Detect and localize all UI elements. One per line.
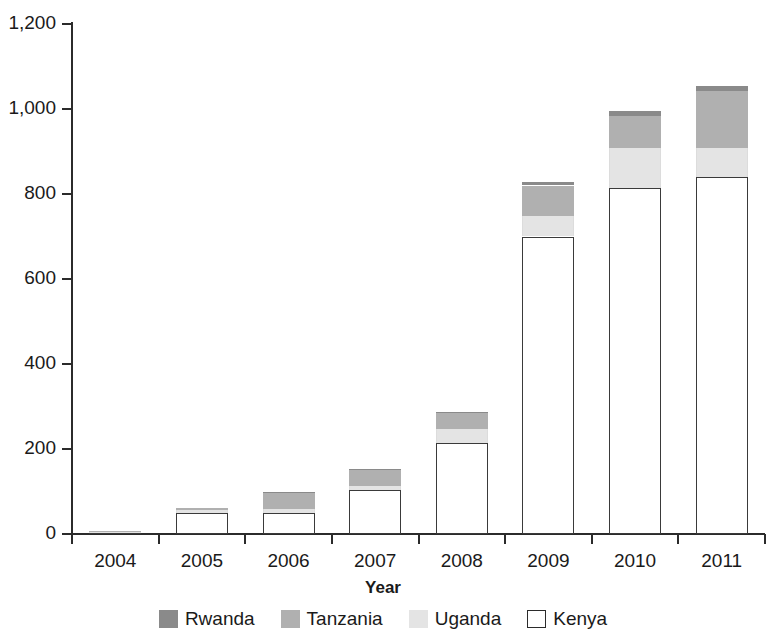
bar-segment-uganda-2007 — [349, 486, 401, 490]
y-axis-tick — [62, 363, 72, 365]
y-axis-tick-label: 1,200 — [0, 12, 56, 34]
legend-swatch-uganda-icon — [409, 610, 428, 628]
bar-segment-tanzania-2006 — [263, 493, 315, 509]
bar-segment-tanzania-2010 — [609, 116, 661, 148]
bar-segment-uganda-2011 — [696, 148, 748, 177]
bar-segment-uganda-2008 — [436, 429, 488, 443]
x-axis-tick-label: 2006 — [245, 550, 332, 572]
bar-segment-tanzania-2007 — [349, 470, 401, 486]
bar-segment-rwanda-2009 — [522, 182, 574, 185]
x-axis-tick-label: 2011 — [678, 550, 765, 572]
x-axis-tick — [591, 534, 593, 544]
bar-segment-tanzania-2005 — [176, 508, 228, 510]
bar-segment-rwanda-2008 — [436, 412, 488, 414]
x-axis-title: Year — [0, 578, 766, 598]
bar-segment-kenya-2007 — [349, 490, 401, 534]
x-axis-tick-label: 2009 — [505, 550, 592, 572]
y-axis-tick — [62, 108, 72, 110]
bar-segment-rwanda-2010 — [609, 111, 661, 116]
bar-segment-kenya-2006 — [263, 513, 315, 534]
bar-segment-tanzania-2008 — [436, 413, 488, 429]
legend-label: Tanzania — [307, 608, 383, 630]
bar-segment-rwanda-2011 — [696, 86, 748, 92]
bar-2009 — [522, 24, 574, 534]
y-axis-tick-label: 400 — [0, 352, 56, 374]
bar-2010 — [609, 24, 661, 534]
legend-swatch-rwanda-icon — [159, 610, 178, 628]
y-axis-tick-label: 600 — [0, 267, 56, 289]
bar-segment-kenya-2010 — [609, 188, 661, 534]
y-axis-tick-label: 1,000 — [0, 97, 56, 119]
y-axis-tick — [62, 23, 72, 25]
x-axis-tick — [418, 534, 420, 544]
legend-label: Kenya — [553, 608, 607, 630]
x-axis-tick — [677, 534, 679, 544]
bar-segment-rwanda-2007 — [349, 469, 401, 471]
x-axis-tick — [504, 534, 506, 544]
stacked-bar-chart: 02004006008001,0001,200 2004200520062007… — [0, 0, 766, 637]
bar-2004 — [89, 24, 141, 534]
bar-segment-uganda-2006 — [263, 509, 315, 513]
y-axis-tick — [62, 193, 72, 195]
chart-legend: RwandaTanzaniaUgandaKenya — [0, 608, 766, 630]
legend-item-uganda[interactable]: Uganda — [409, 608, 502, 630]
bar-segment-uganda-2005 — [176, 510, 228, 513]
bar-2007 — [349, 24, 401, 534]
y-axis-tick-label: 800 — [0, 182, 56, 204]
x-axis-tick-label: 2010 — [592, 550, 679, 572]
y-axis-tick — [62, 278, 72, 280]
x-axis-tick-label: 2007 — [332, 550, 419, 572]
y-axis-tick-label: 0 — [0, 522, 56, 544]
bar-segment-rwanda-2006 — [263, 492, 315, 494]
bar-2006 — [263, 24, 315, 534]
legend-item-tanzania[interactable]: Tanzania — [281, 608, 383, 630]
x-axis-tick-label: 2005 — [159, 550, 246, 572]
legend-label: Rwanda — [185, 608, 255, 630]
bar-segment-tanzania-2004 — [89, 531, 141, 533]
bar-segment-uganda-2010 — [609, 148, 661, 188]
x-axis-tick — [158, 534, 160, 544]
y-axis-tick — [62, 448, 72, 450]
legend-label: Uganda — [435, 608, 502, 630]
bar-segment-tanzania-2011 — [696, 91, 748, 148]
bar-segment-tanzania-2009 — [522, 186, 574, 217]
x-axis-tick-label: 2008 — [419, 550, 506, 572]
legend-item-kenya[interactable]: Kenya — [527, 608, 607, 630]
y-axis-tick-label: 200 — [0, 437, 56, 459]
bar-2005 — [176, 24, 228, 534]
legend-swatch-tanzania-icon — [281, 610, 300, 628]
bar-2011 — [696, 24, 748, 534]
x-axis-tick — [71, 534, 73, 544]
legend-swatch-kenya-icon — [527, 610, 546, 628]
bar-2008 — [436, 24, 488, 534]
bar-segment-kenya-2009 — [522, 237, 574, 535]
bar-segment-kenya-2008 — [436, 443, 488, 534]
legend-item-rwanda[interactable]: Rwanda — [159, 608, 255, 630]
bar-segment-uganda-2009 — [522, 216, 574, 236]
bar-segment-kenya-2011 — [696, 177, 748, 534]
x-axis-tick-label: 2004 — [72, 550, 159, 572]
x-axis-tick — [331, 534, 333, 544]
bar-segment-kenya-2005 — [176, 513, 228, 534]
x-axis-tick — [244, 534, 246, 544]
